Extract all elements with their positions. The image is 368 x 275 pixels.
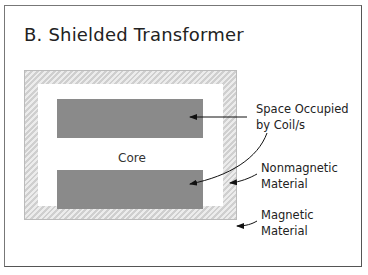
magnetic-label: Magnetic Material xyxy=(261,207,314,239)
core-label: Core xyxy=(118,151,146,165)
slide-title: B. Shielded Transformer xyxy=(24,24,244,45)
coil-space-top xyxy=(57,99,203,138)
nonmagnetic-label: Nonmagnetic Material xyxy=(261,160,338,192)
coil-space-bottom xyxy=(57,170,203,209)
coil-label: Space Occupied by Coil/s xyxy=(256,101,349,133)
